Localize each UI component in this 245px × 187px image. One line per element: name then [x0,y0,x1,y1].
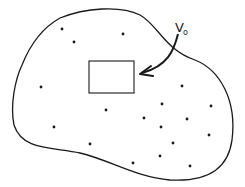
point-charge [172,142,175,145]
pointer-arrow [142,34,178,73]
point-charge [89,143,92,146]
point-charge [143,117,146,120]
point-charge [161,103,164,106]
point-charge [208,134,211,137]
point-charge [189,165,192,168]
point-charge [105,109,108,112]
point-charge [159,155,162,158]
point-charge [210,105,213,108]
point-charge [160,126,163,129]
volume-label-subscript: o [183,28,188,37]
volume-element [89,61,134,93]
point-charge [73,41,76,44]
point-charge [53,126,56,129]
diagram-canvas [0,0,245,187]
point-charge [122,33,125,36]
point-charge [181,85,184,88]
point-charge [132,162,135,165]
volume-label: Vo [175,17,189,36]
point-charge [61,28,64,31]
charge-points [40,28,213,168]
point-charge [186,118,189,121]
point-charge [40,86,43,89]
